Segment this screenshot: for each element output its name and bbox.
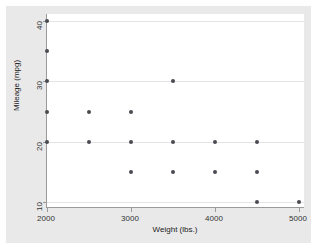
plot-area [46, 14, 304, 208]
data-point [45, 19, 49, 23]
x-tick-4000 [215, 208, 216, 212]
y-axis-title: Mileage (mpg) [12, 60, 21, 111]
data-point [297, 200, 301, 204]
y-tick-label-30: 30 [36, 81, 45, 90]
gridline-y-40 [47, 21, 304, 22]
gridline-y-30 [47, 81, 304, 82]
data-point [255, 170, 259, 174]
y-tick-label-20: 20 [36, 142, 45, 151]
x-axis-title: Weight (lbs.) [46, 225, 304, 234]
data-point [255, 200, 259, 204]
x-tick-label-2000: 2000 [37, 214, 55, 223]
data-point [129, 140, 133, 144]
x-tick-label-5000: 5000 [289, 214, 307, 223]
scatter-plot-figure: Mileage (mpg) 10203040 2000300040005000 … [0, 0, 317, 249]
x-tick-2000 [47, 208, 48, 212]
data-point [213, 140, 217, 144]
data-point [87, 110, 91, 114]
data-point [255, 140, 259, 144]
data-point [45, 140, 49, 144]
x-tick-label-4000: 4000 [205, 214, 223, 223]
gridline-y-20 [47, 142, 304, 143]
x-tick-3000 [131, 208, 132, 212]
data-point [129, 110, 133, 114]
gridline-y-10 [47, 202, 304, 203]
y-tick-label-40: 40 [36, 21, 45, 30]
x-tick-label-3000: 3000 [121, 214, 139, 223]
data-point [45, 79, 49, 83]
data-point [129, 170, 133, 174]
data-point [213, 170, 217, 174]
data-point [45, 49, 49, 53]
data-point [87, 140, 91, 144]
y-tick-label-10: 10 [36, 202, 45, 211]
y-tick-10 [43, 202, 47, 203]
data-point [171, 79, 175, 83]
data-point [45, 110, 49, 114]
x-tick-5000 [299, 208, 300, 212]
data-point [171, 170, 175, 174]
data-point [171, 140, 175, 144]
